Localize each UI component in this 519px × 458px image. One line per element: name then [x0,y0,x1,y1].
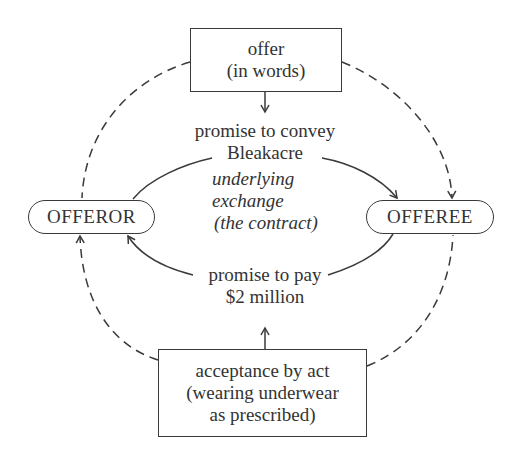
offeree-label: OFFEREE [387,206,473,228]
underlying-exchange-label: underlying exchange (the contract) [212,168,342,234]
center-line-3: (the contract) [212,212,342,234]
promise-pay-line-1: promise to pay [170,264,360,286]
acceptance-box[interactable]: acceptance by act (wearing underwear as … [158,349,367,437]
center-line-1: underlying [212,168,342,190]
offer-line-2: (in words) [227,60,306,82]
offeror-node[interactable]: OFFEROR [28,200,155,234]
contract-diagram: offer (in words) promise to convey Bleak… [0,0,519,458]
acceptance-line-3: as prescribed) [209,404,315,426]
offer-box[interactable]: offer (in words) [190,28,342,92]
promise-convey-line-1: promise to convey [165,120,365,142]
offeror-label: OFFEROR [47,206,136,228]
promise-pay-label: promise to pay $2 million [170,264,360,308]
promise-convey-label: promise to convey Bleakacre [165,120,365,164]
acceptance-line-1: acceptance by act [196,360,330,382]
center-line-2: exchange [212,190,342,212]
promise-convey-line-2: Bleakacre [165,142,365,164]
dashed-acceptance-to-offeree [367,235,453,366]
promise-pay-line-2: $2 million [170,286,360,308]
offer-line-1: offer [248,38,285,60]
offeree-node[interactable]: OFFEREE [366,200,494,234]
acceptance-line-2: (wearing underwear [186,382,338,404]
arc-offeror-to-convey [133,158,212,199]
